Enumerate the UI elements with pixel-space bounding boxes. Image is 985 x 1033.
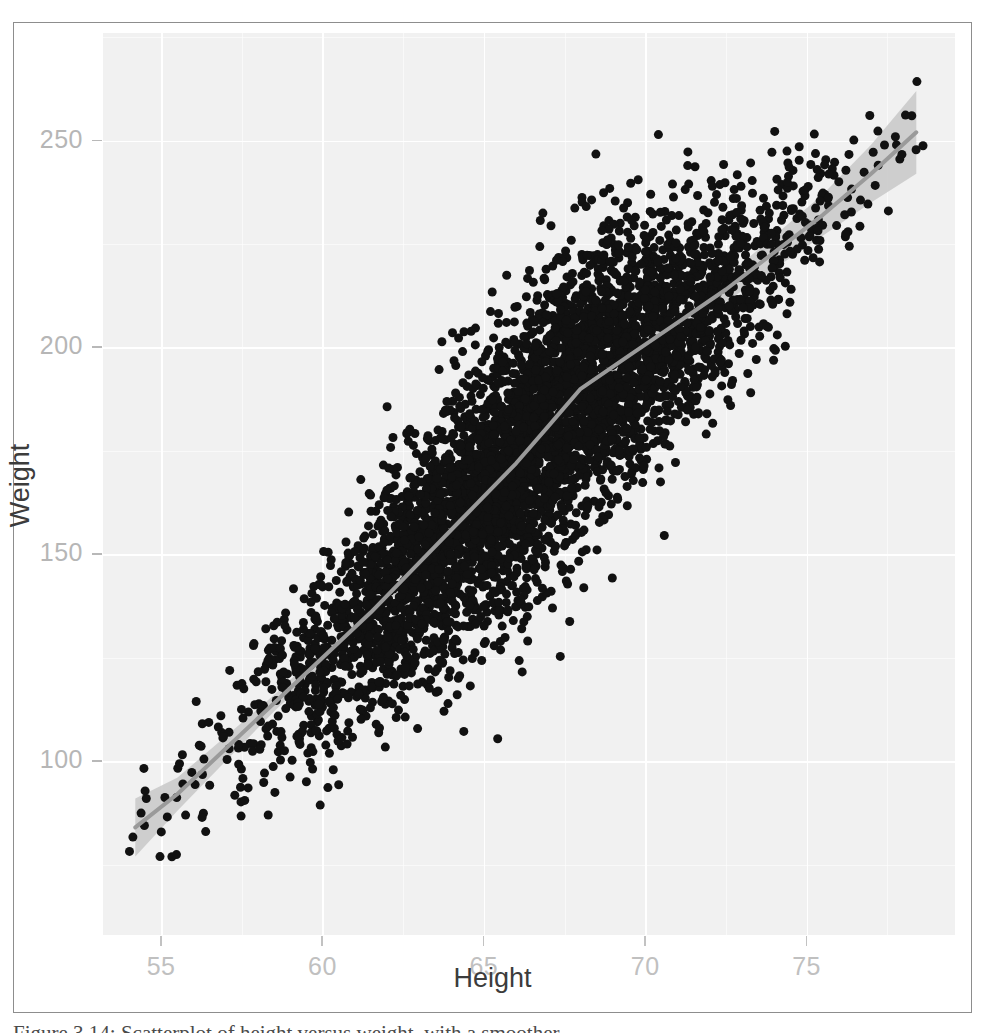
x-tick-mark [321,936,323,946]
figure-scatterplot-height-weight: 100150200250 5560657075 Weight Height [0,0,985,1013]
y-tick-label: 250 [0,125,83,154]
y-tick-label: 100 [0,745,83,774]
plot-panel [103,33,955,935]
y-axis-title: Weight [5,406,36,566]
x-tick-mark [483,936,485,946]
figure-caption: Figure 3.14: Scatterplot of height versu… [13,1021,953,1033]
scatter-points [125,77,928,861]
plot-data-layer [103,33,955,935]
x-tick-mark [806,936,808,946]
y-tick-mark [92,346,102,348]
x-axis-title: Height [0,963,985,994]
x-tick-mark [160,936,162,946]
y-tick-label: 200 [0,331,83,360]
y-tick-mark [92,553,102,555]
y-tick-mark [92,140,102,142]
y-tick-mark [92,760,102,762]
x-tick-mark [644,936,646,946]
